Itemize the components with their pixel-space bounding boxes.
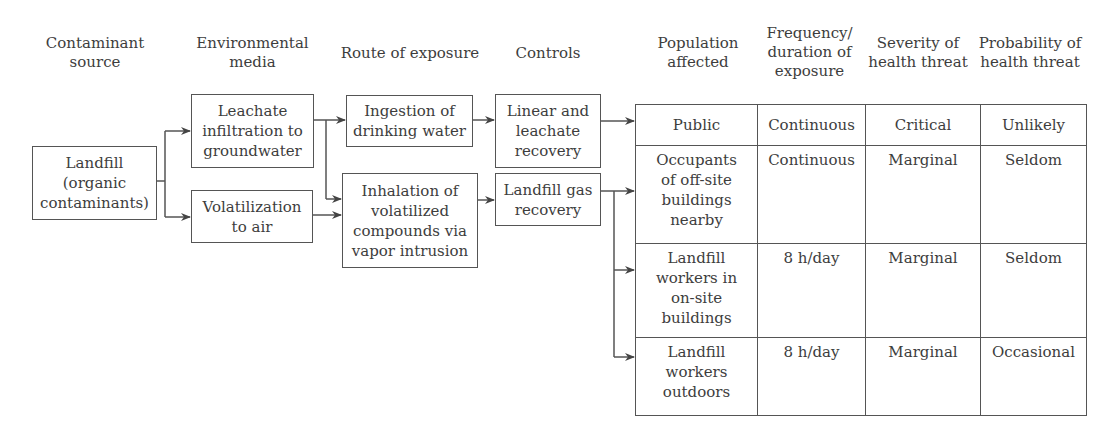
source-landfill-box: Landfill (organic contaminants) (32, 146, 157, 220)
severity-cell: Marginal (866, 146, 981, 244)
population-cell: Occupants of off-site buildings nearby (636, 146, 758, 244)
control-leachate-recovery-box: Linear and leachate recovery (495, 94, 601, 168)
table-row: Occupants of off-site buildings nearby C… (636, 146, 1087, 244)
probability-cell: Seldom (981, 244, 1087, 338)
frequency-cell: 8 h/day (758, 338, 866, 416)
population-cell: Public (636, 105, 758, 146)
population-cell: Landfill workers outdoors (636, 338, 758, 416)
media-leachate-box: Leachate infiltration to groundwater (191, 94, 314, 168)
table-row: Public Continuous Critical Unlikely (636, 105, 1087, 146)
control-landfill-gas-box: Landfill gas recovery (495, 173, 601, 226)
severity-cell: Critical (866, 105, 981, 146)
table-row: Landfill workers in on-site buildings 8 … (636, 244, 1087, 338)
table-row: Landfill workers outdoors 8 h/day Margin… (636, 338, 1087, 416)
exposure-outcomes-table: Public Continuous Critical Unlikely Occu… (635, 104, 1087, 416)
route-ingestion-box: Ingestion of drinking water (346, 95, 473, 147)
frequency-cell: Continuous (758, 146, 866, 244)
frequency-cell: 8 h/day (758, 244, 866, 338)
probability-cell: Seldom (981, 146, 1087, 244)
severity-cell: Marginal (866, 338, 981, 416)
probability-cell: Occasional (981, 338, 1087, 416)
route-inhalation-box: Inhalation of volatilized compounds via … (342, 173, 478, 268)
frequency-cell: Continuous (758, 105, 866, 146)
severity-cell: Marginal (866, 244, 981, 338)
media-volatilization-box: Volatilization to air (191, 190, 313, 243)
probability-cell: Unlikely (981, 105, 1087, 146)
population-cell: Landfill workers in on-site buildings (636, 244, 758, 338)
